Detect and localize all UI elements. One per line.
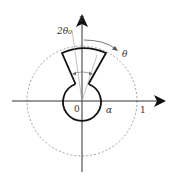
origin-label: 0	[74, 104, 80, 114]
cone-ray-right	[82, 55, 97, 101]
angle-arrow-right-icon	[89, 72, 93, 76]
cone-shape	[62, 48, 106, 84]
theta-label: θ	[122, 49, 128, 59]
diagram-canvas: z 2θ₀ θ 0 α 1	[0, 0, 174, 180]
angle-arrow-left-icon	[72, 72, 76, 76]
unit-label: 1	[140, 105, 146, 115]
angle-span-label: 2θ₀	[56, 26, 72, 36]
z-axis-label: z	[78, 13, 84, 23]
alpha-label: α	[106, 105, 112, 115]
diagram: z 2θ₀ θ 0 α 1	[0, 0, 174, 180]
cone-ray-left	[72, 30, 82, 101]
